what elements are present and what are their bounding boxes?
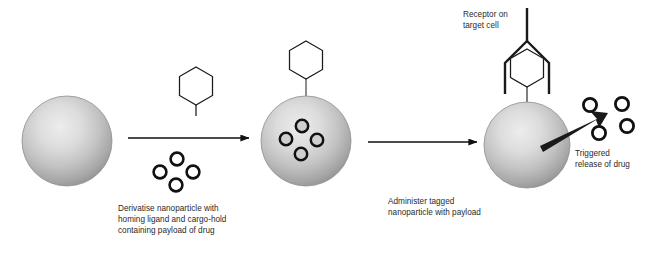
drug-circle-icon	[171, 153, 184, 166]
drug-circle-icon	[154, 166, 167, 179]
caption-step-2: Administer tagged nanoparticle with payl…	[388, 196, 558, 218]
drug-circle-icon	[311, 134, 323, 146]
nanoparticle-sphere	[484, 102, 570, 188]
label-receptor-on-target-cell: Receptor on target cell	[463, 9, 533, 31]
released-drug-payload	[583, 97, 633, 139]
hexagon-icon	[511, 49, 544, 87]
drug-circle-icon	[295, 148, 307, 160]
drug-circle-icon	[296, 120, 308, 132]
stage-tagged-nanoparticle	[261, 41, 351, 186]
drug-circle-icon	[583, 98, 596, 111]
nanoparticle-sphere	[261, 96, 351, 186]
drug-circle-icon	[615, 97, 628, 110]
drug-circle-icon	[280, 133, 292, 145]
reagent-homing-ligand	[180, 67, 213, 116]
hexagon-icon	[290, 41, 323, 79]
nanoparticle-delivery-diagram: Derivatise nanoparticle with homing liga…	[0, 0, 658, 253]
nanoparticle-sphere	[22, 96, 112, 186]
stage-bare-nanoparticle	[22, 96, 112, 186]
drug-circle-icon	[620, 119, 633, 132]
caption-step-1: Derivatise nanoparticle with homing liga…	[118, 203, 308, 237]
diagram-canvas	[0, 0, 658, 253]
reagent-drug-payload	[154, 153, 200, 192]
drug-circle-icon	[170, 179, 183, 192]
hexagon-icon	[180, 67, 213, 105]
label-triggered-release: Triggered release of drug	[575, 148, 658, 170]
drug-circle-icon	[187, 166, 200, 179]
drug-circle-icon	[592, 126, 605, 139]
